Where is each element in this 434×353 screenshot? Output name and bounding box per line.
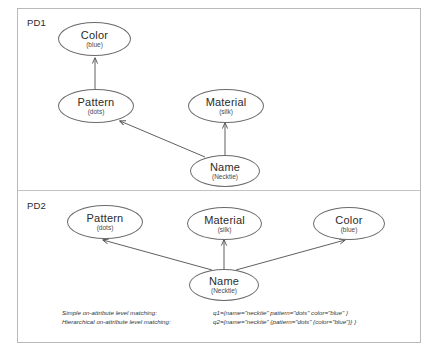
pd1-node-pattern-value: (dots) [88, 108, 105, 116]
pd2-node-name-value: (Necktie) [211, 287, 237, 295]
pd2-node-material-title: Material [204, 214, 245, 226]
pd1-node-name-value: (Necktie) [212, 173, 238, 181]
pd1-node-material[interactable]: Material (silk) [188, 89, 264, 123]
pd2-node-name[interactable]: Name (Necktie) [189, 269, 259, 301]
edge-pd2-name-to-color [236, 240, 345, 270]
pd2-node-pattern[interactable]: Pattern (dots) [67, 205, 143, 239]
pd1-node-material-title: Material [206, 96, 247, 108]
legend-simple-label: Simple on-attribute level matching: [62, 309, 157, 318]
pd1-node-pattern[interactable]: Pattern (dots) [58, 89, 134, 123]
legend-simple-query: q1={name="necktie" pattern="dots" color=… [213, 309, 348, 318]
pd2-node-color[interactable]: Color (blue) [313, 207, 385, 240]
pd1-node-color-value: (blue) [86, 41, 103, 49]
pd2-node-material[interactable]: Material (silk) [187, 207, 262, 240]
section-label-pd2: PD2 [27, 200, 46, 211]
legend-hierarchical-query: q2={name="necktie" {pattern="dots" {colo… [213, 318, 356, 327]
pd2-node-pattern-title: Pattern [87, 212, 124, 224]
pd2-node-name-title: Name [209, 275, 239, 287]
pd2-node-color-value: (blue) [341, 226, 358, 234]
edge-pd2-name-to-pattern [103, 240, 212, 270]
pd2-node-pattern-value: (dots) [97, 224, 114, 232]
pd1-node-color-title: Color [81, 29, 108, 41]
section-divider [18, 190, 420, 191]
pd1-node-name-title: Name [210, 161, 240, 173]
pd1-node-material-value: (silk) [219, 108, 233, 116]
section-label-pd1: PD1 [27, 17, 46, 28]
pd1-node-name[interactable]: Name (Necktie) [190, 155, 260, 187]
pd2-node-color-title: Color [335, 214, 362, 226]
diagram-canvas: PD1 Color (blue) Pattern (dots) Material… [0, 0, 434, 353]
pd1-node-pattern-title: Pattern [78, 96, 115, 108]
pd1-node-color[interactable]: Color (blue) [58, 22, 131, 56]
edge-pd1-name-to-pattern [120, 121, 205, 157]
pd2-node-material-value: (silk) [218, 226, 232, 234]
legend-hierarchical-label: Hierarchical on-attribute level matching… [62, 318, 171, 327]
